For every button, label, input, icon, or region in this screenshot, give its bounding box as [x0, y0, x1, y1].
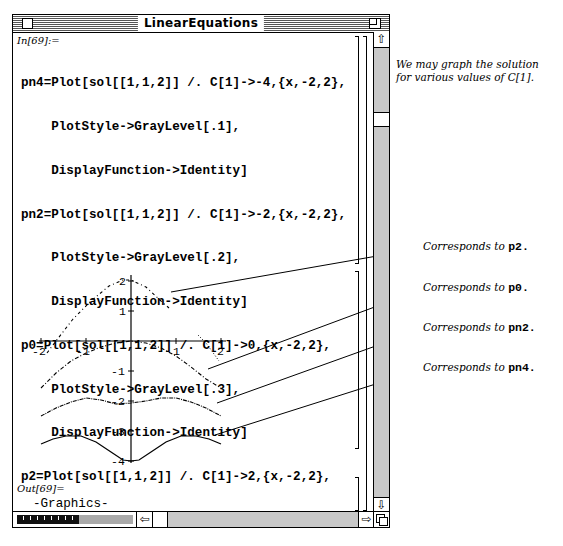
notebook-content[interactable]: In[69]:= pn4=Plot[sol[[1,1,2]] /. C[1]->… [13, 33, 374, 513]
output-value: -Graphics- [33, 497, 109, 511]
annotation-pn4: Corresponds to pn4. [423, 361, 536, 374]
code-line: PlotStyle->GrayLevel[.1], [21, 120, 346, 135]
vertical-scrollbar[interactable]: ⇧ ⇩ [373, 32, 389, 513]
vertical-scroll-thumb[interactable] [374, 112, 389, 127]
scroll-left-arrow-icon[interactable]: ⇦ [137, 512, 153, 527]
code-line: p0=Plot[sol[[1,1,2]] /. C[1]->0,{x,-2,2}… [21, 339, 346, 354]
input-code[interactable]: pn4=Plot[sol[[1,1,2]] /. C[1]->-4,{x,-2,… [21, 47, 346, 513]
resize-grow-box[interactable] [373, 511, 389, 527]
code-line: PlotStyle->GrayLevel[.2], [21, 251, 346, 266]
group-bracket[interactable] [363, 36, 367, 511]
bottom-bar: ⇦ ⇨ [13, 511, 389, 527]
window-title: LinearEquations [138, 15, 264, 32]
scroll-right-arrow-icon[interactable]: ⇨ [358, 512, 374, 527]
output-cell-bracket[interactable] [355, 477, 359, 511]
code-line: DisplayFunction->Identity] [21, 295, 346, 310]
graphics-cell-bracket[interactable] [355, 271, 359, 449]
zoom-box-button[interactable] [369, 18, 381, 29]
horizontal-scrollbar[interactable]: ⇦ ⇨ [137, 512, 374, 527]
code-line: PlotStyle->GrayLevel[.3], [21, 383, 346, 398]
magnification-ruler[interactable] [13, 512, 137, 527]
title-bar[interactable]: LinearEquations [13, 15, 389, 33]
input-label: In[69]:= [17, 35, 60, 46]
input-cell-bracket[interactable] [355, 36, 359, 264]
annotation-p0: Corresponds to p0. [423, 281, 529, 294]
code-line: DisplayFunction->Identity] [21, 426, 346, 441]
annotation-intro: We may graph the solution for various va… [396, 58, 539, 84]
notebook-window: LinearEquations In[69]:= pn4=Plot[sol[[1… [12, 14, 390, 528]
output-label: Out[69]= [17, 483, 65, 494]
close-box-button[interactable] [22, 18, 33, 29]
scroll-up-arrow-icon[interactable]: ⇧ [374, 32, 389, 48]
code-line: pn2=Plot[sol[[1,1,2]] /. C[1]->-2,{x,-2,… [21, 208, 346, 223]
annotation-pn2: Corresponds to pn2. [423, 321, 536, 334]
code-line: DisplayFunction->Identity] [21, 164, 346, 179]
code-line: p2=Plot[sol[[1,1,2]] /. C[1]->2,{x,-2,2}… [21, 470, 346, 485]
annotation-p2: Corresponds to p2. [423, 240, 529, 253]
horizontal-scroll-thumb[interactable] [153, 512, 168, 527]
code-line: pn4=Plot[sol[[1,1,2]] /. C[1]->-4,{x,-2,… [21, 76, 346, 91]
